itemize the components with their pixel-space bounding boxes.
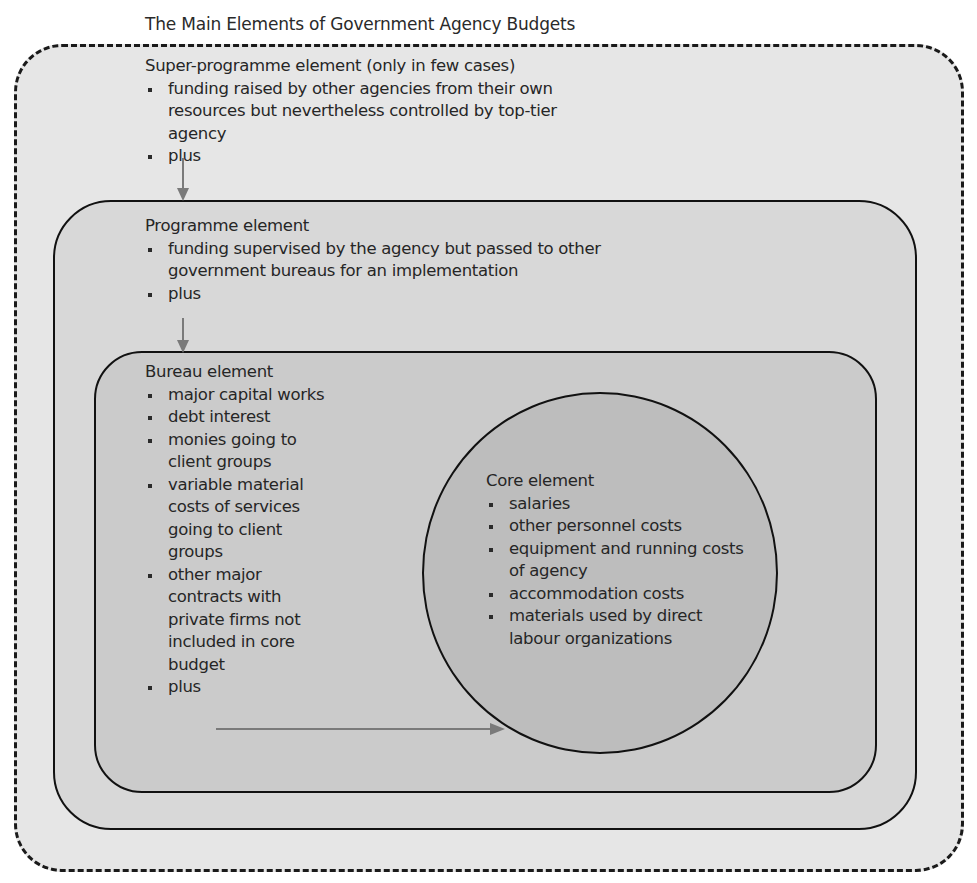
super-programme-heading: Super-programme element (only in few cas… [145,55,705,78]
programme-list: funding supervised by the agency but pas… [145,238,645,306]
list-item: accommodation costs [486,583,746,606]
list-item: equipment and running costs of agency [486,538,744,583]
list-item: plus [145,145,705,168]
list-item: funding raised by other agencies from th… [145,78,598,146]
core-list: salaries other personnel costs equipment… [486,493,746,651]
bureau-heading: Bureau element [145,361,345,384]
programme-heading: Programme element [145,215,645,238]
bureau-block: Bureau element major capital works debt … [145,361,345,699]
list-item: other personnel costs [486,515,746,538]
list-item: variable material costs of services goin… [145,474,308,564]
bureau-list: major capital works debt interest monies… [145,384,345,699]
list-item: funding supervised by the agency but pas… [145,238,628,283]
list-item: plus [145,283,645,306]
super-programme-block: Super-programme element (only in few cas… [145,55,705,168]
list-item: debt interest [145,406,345,429]
core-block: Core element salaries other personnel co… [486,470,746,650]
core-heading: Core element [486,470,746,493]
list-item: other major contracts with private firms… [145,564,303,677]
diagram-title: The Main Elements of Government Agency B… [145,14,575,34]
list-item: plus [145,676,345,699]
super-programme-list: funding raised by other agencies from th… [145,78,705,168]
list-item: materials used by direct labour organiza… [486,605,754,650]
programme-block: Programme element funding supervised by … [145,215,645,305]
list-item: salaries [486,493,746,516]
list-item: major capital works [145,384,345,407]
list-item: monies going to client groups [145,429,308,474]
